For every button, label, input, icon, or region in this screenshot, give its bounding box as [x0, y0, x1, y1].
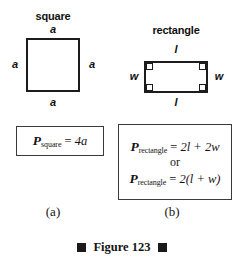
caption-marker-left-icon [77, 243, 86, 252]
square-formula-subscript: square [41, 140, 61, 149]
rectangle-formula-equals-2: = [169, 172, 176, 186]
square-formula-expression: 4a [75, 134, 88, 148]
caption-text: Figure 123 [93, 240, 150, 255]
rectangle-formula-expression-1: 2l + 2w [180, 140, 219, 154]
right-angle-mark-top-left-icon [146, 63, 153, 70]
rectangle-perimeter-formula-sum: Prectangle = 2l + 2w [131, 139, 220, 156]
rectangle-formula-symbol-1: P [131, 139, 139, 154]
square-diagram [26, 38, 80, 92]
rectangle-formula-subscript-2: rectangle [138, 178, 166, 187]
rectangle-formula-symbol-2: P [129, 171, 137, 186]
right-angle-mark-bottom-left-icon [146, 84, 153, 91]
rectangle-side-label-top: l [136, 44, 216, 55]
rectangle-side-label-right: w [212, 71, 226, 82]
rectangle-side-label-left: w [127, 71, 141, 82]
square-formula-symbol: P [33, 133, 41, 148]
square-side-label-top: a [16, 24, 90, 35]
square-perimeter-formula-box: Psquare = 4a [16, 126, 104, 156]
rectangle-formula-subscript-1: rectangle [139, 145, 167, 154]
panel-letter-b: (b) [145, 204, 199, 220]
square-side-label-bottom: a [16, 97, 90, 108]
square-perimeter-formula: Psquare = 4a [33, 133, 87, 150]
figure-page: square a a a a Psquare = 4a (a) rectangl… [0, 0, 244, 270]
panel-letter-a: (a) [26, 204, 80, 220]
figure-caption: Figure 123 [0, 240, 244, 255]
square-side-label-right: a [85, 59, 99, 70]
right-angle-mark-bottom-right-icon [199, 84, 206, 91]
rectangle-formula-equals-1: = [170, 140, 177, 154]
square-formula-equals: = [64, 134, 71, 148]
rectangle-diagram [144, 61, 208, 93]
right-angle-mark-top-right-icon [199, 63, 206, 70]
rectangle-formula-expression-2: 2(l + w) [179, 172, 220, 186]
square-shape-title: square [16, 10, 90, 22]
rectangle-perimeter-formula-box: Prectangle = 2l + 2w or Prectangle = 2(l… [118, 124, 232, 200]
rectangle-shape-title: rectangle [136, 24, 216, 36]
square-side-label-left: a [8, 59, 22, 70]
rectangle-perimeter-formula-factored: Prectangle = 2(l + w) [129, 171, 220, 188]
caption-marker-right-icon [158, 243, 167, 252]
formula-connector-or: or [170, 155, 180, 171]
rectangle-side-label-bottom: l [136, 97, 216, 108]
